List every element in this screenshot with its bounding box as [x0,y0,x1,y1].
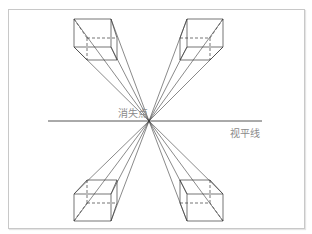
vanishing-rays [74,19,223,221]
perspective-diagram [0,0,312,234]
box-top-right [180,19,223,60]
box-bottom-right [180,180,223,221]
box-bottom-left [74,180,117,221]
vanishing-point-label: 消失点 [118,105,148,120]
box-top-left [74,19,117,60]
horizon-line-label: 视平线 [230,125,260,140]
